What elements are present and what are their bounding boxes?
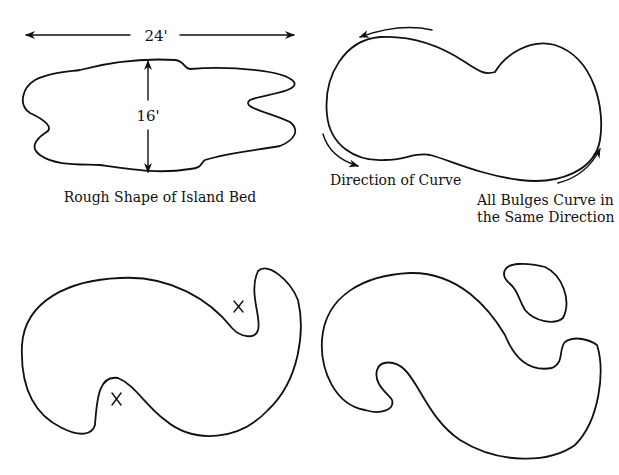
x-marker-upper xyxy=(234,301,243,312)
island-bed-diagram: 24' 16' Rough Shape of Island Bed Direct… xyxy=(0,0,619,475)
curve-arrow-top xyxy=(360,28,432,37)
rough-shape-panel: 24' 16' Rough Shape of Island Bed xyxy=(23,27,295,205)
small-island-outline xyxy=(504,264,566,322)
bulges-caption-line2: the Same Direction xyxy=(477,209,614,225)
rough-shape-caption: Rough Shape of Island Bed xyxy=(64,189,257,205)
height-label: 16' xyxy=(136,107,159,125)
curve-arrow-left xyxy=(323,134,358,166)
bottom-left-panel xyxy=(22,269,301,436)
x-marker-lower xyxy=(112,393,121,405)
curve-direction-panel: Direction of Curve All Bulges Curve in t… xyxy=(323,28,614,225)
s-curve-outline xyxy=(322,273,601,459)
paisley-outline xyxy=(22,269,301,436)
bulges-caption-line1: All Bulges Curve in xyxy=(476,192,614,208)
curve-arrow-right xyxy=(558,149,600,183)
peanut-outline xyxy=(327,37,602,181)
direction-caption: Direction of Curve xyxy=(330,172,461,188)
bottom-right-panel xyxy=(322,264,601,459)
width-label: 24' xyxy=(144,27,167,45)
